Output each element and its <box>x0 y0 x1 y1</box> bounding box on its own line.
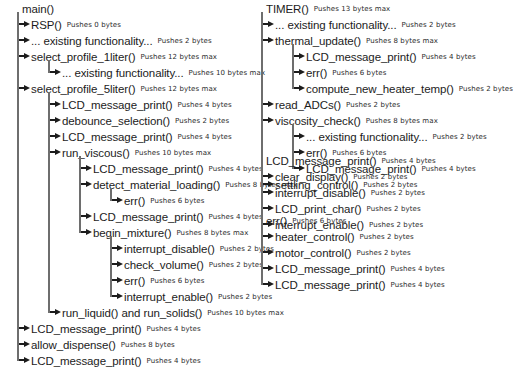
branch-arrow-icon <box>79 181 93 188</box>
stack-usage-annotation: Pushes 13 bytes max <box>314 5 391 13</box>
stack-usage-annotation: Pushes 2 bytes <box>360 233 414 241</box>
call-tree-node: run_liquid() and run_solids()Pushes 10 b… <box>0 304 297 320</box>
call-tree-node: LCD_message_print()Pushes 4 bytes <box>0 320 297 336</box>
stack-usage-annotation: Pushes 4 bytes <box>178 133 232 141</box>
function-name-label: ... existing functionality... <box>31 35 153 47</box>
function-name-label: interrupt_disable() <box>275 187 366 199</box>
branch-arrow-icon <box>261 189 275 196</box>
branch-arrow-icon <box>261 37 275 44</box>
function-name-label: select_profile_1liter() <box>31 51 135 63</box>
elbow-arrow-icon <box>110 197 124 204</box>
branch-arrow-icon <box>261 265 275 272</box>
stack-usage-annotation: Pushes 12 bytes max <box>140 53 217 61</box>
call-tree-node: compute_new_heater_temp()Pushes 2 bytes <box>244 80 513 96</box>
call-tree-node: viscosity_check()Pushes 8 bytes max <box>244 112 513 128</box>
stack-usage-annotation: Pushes 2 bytes <box>218 293 272 301</box>
branch-arrow-icon <box>79 213 93 220</box>
function-name-label: TIMER() <box>266 3 309 15</box>
branch-arrow-icon <box>17 37 31 44</box>
branch-arrow-icon <box>17 53 31 60</box>
stack-usage-annotation: Pushes 6 bytes <box>292 217 346 225</box>
tree-connector-line <box>110 188 112 201</box>
stack-usage-annotation: Pushes 2 bytes <box>175 117 229 125</box>
stack-usage-annotation: Pushes 4 bytes <box>147 325 201 333</box>
stack-usage-annotation: Pushes 2 bytes <box>353 173 407 181</box>
function-name-label: motor_control() <box>275 247 351 259</box>
stack-usage-annotation: Pushes 12 bytes max <box>140 85 217 93</box>
elbow-arrow-icon <box>292 85 306 92</box>
function-name-label: err() <box>124 195 145 207</box>
stack-usage-annotation: Pushes 4 bytes <box>178 101 232 109</box>
call-tree-node: ... existing functionality...Pushes 2 by… <box>244 16 513 32</box>
tree-connector-line <box>110 236 112 297</box>
function-name-label: run_viscous() <box>62 147 130 159</box>
branch-arrow-icon <box>292 53 306 60</box>
tree-connector-line <box>48 92 50 313</box>
call-tree-node: clear_display()Pushes 2 bytes <box>244 168 436 184</box>
call-tree-node: err()Pushes 6 bytes <box>244 64 513 80</box>
branch-arrow-icon <box>261 205 275 212</box>
branch-arrow-icon <box>48 133 62 140</box>
call-tree-root-node: TIMER()Pushes 13 bytes max <box>244 0 513 16</box>
branch-arrow-icon <box>292 133 306 140</box>
function-name-label: RSP() <box>31 19 62 31</box>
stack-usage-annotation: Pushes 6 bytes <box>332 69 386 77</box>
function-name-label: LCD_message_print() <box>31 323 142 335</box>
function-name-label: interrupt_enable() <box>124 291 213 303</box>
function-name-label: LCD_message_print() <box>93 211 204 223</box>
call-tree-node: interrupt_disable()Pushes 2 bytes <box>244 184 436 200</box>
function-name-label: LCD_message_print() <box>275 263 386 275</box>
stack-usage-annotation: Pushes 4 bytes <box>391 265 445 273</box>
branch-arrow-icon <box>261 249 275 256</box>
call-tree-node: allow_dispense()Pushes 8 bytes <box>0 336 297 352</box>
function-name-label: err() <box>124 275 145 287</box>
tree-connector-line <box>17 12 19 361</box>
function-name-label: clear_display() <box>275 171 348 183</box>
call-tree-node: heater_control()Pushes 2 bytes <box>244 228 445 244</box>
stack-usage-annotation: Pushes 6 bytes <box>150 197 204 205</box>
stack-usage-annotation: Pushes 4 bytes <box>382 157 436 165</box>
stack-usage-annotation: Pushes 2 bytes <box>371 189 425 197</box>
stack-usage-annotation: Pushes 0 bytes <box>67 21 121 29</box>
stack-usage-annotation: Pushes 2 bytes <box>433 133 487 141</box>
function-name-label: LCD_message_print() <box>275 279 386 291</box>
elbow-arrow-icon <box>79 229 93 236</box>
branch-arrow-icon <box>110 261 124 268</box>
stack-usage-annotation: Pushes 2 bytes <box>158 37 212 45</box>
function-name-label: err() <box>306 67 327 79</box>
elbow-arrow-icon <box>17 357 31 364</box>
function-name-label: LCD_message_print() <box>306 51 417 63</box>
call-tree-node: motor_control()Pushes 2 bytes <box>244 244 445 260</box>
function-name-label: begin_mixture() <box>93 227 171 239</box>
branch-arrow-icon <box>261 101 275 108</box>
function-name-label: LCD_message_print() <box>31 355 142 367</box>
branch-arrow-icon <box>261 173 275 180</box>
function-name-label: ... existing functionality... <box>62 67 184 79</box>
tree-connector-line <box>79 156 81 233</box>
call-tree-root-node: LCD_message_print()Pushes 4 bytes <box>244 152 436 168</box>
branch-arrow-icon <box>110 277 124 284</box>
branch-arrow-icon <box>292 69 306 76</box>
stack-usage-annotation: Pushes 2 bytes <box>346 101 400 109</box>
stack-usage-annotation: Pushes 8 bytes <box>121 341 175 349</box>
stack-usage-annotation: Pushes 10 bytes max <box>207 309 284 317</box>
function-name-label: LCD_message_print() <box>266 155 377 167</box>
elbow-arrow-icon <box>48 309 62 316</box>
call-tree-err: err()Pushes 6 bytesheater_control()Pushe… <box>244 212 445 292</box>
stack-usage-annotation: Pushes 2 bytes <box>356 249 410 257</box>
branch-arrow-icon <box>17 325 31 332</box>
stack-usage-annotation: Pushes 8 bytes max <box>366 37 438 45</box>
tree-connector-line <box>261 224 263 285</box>
stack-usage-annotation: Pushes 2 bytes <box>402 21 456 29</box>
call-tree-node: LCD_message_print()Pushes 4 bytes <box>0 352 297 368</box>
call-tree-node: ... existing functionality...Pushes 2 by… <box>244 128 513 144</box>
function-name-label: detect_material_loading() <box>93 179 220 191</box>
call-tree-node: LCD_message_print()Pushes 4 bytes <box>244 48 513 64</box>
function-name-label: compute_new_heater_temp() <box>306 83 454 95</box>
branch-arrow-icon <box>48 117 62 124</box>
function-name-label: check_volume() <box>124 259 204 271</box>
call-tree-node: LCD_message_print()Pushes 4 bytes <box>244 260 445 276</box>
function-name-label: viscosity_check() <box>275 115 361 127</box>
branch-arrow-icon <box>261 21 275 28</box>
stack-usage-annotation: Pushes 4 bytes <box>422 53 476 61</box>
